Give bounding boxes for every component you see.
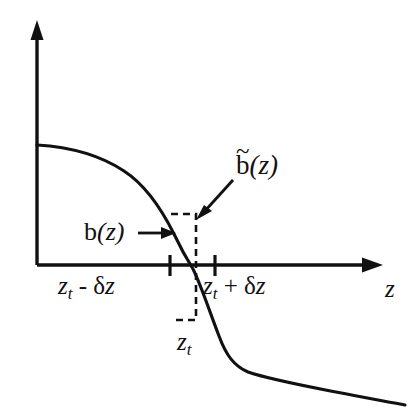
b-base: b [84, 217, 97, 246]
label-x-axis-z: z [385, 276, 395, 301]
b-argument: (z) [97, 217, 124, 246]
delta-glyph: δ [244, 272, 256, 299]
label-zt-plus-deltaz: zt + δz [203, 273, 266, 302]
zt-plus-op: + [217, 272, 244, 299]
b-tilde-annotation-arrow [196, 180, 233, 220]
label-b-of-z: b(z) [84, 219, 124, 245]
zt-minus-op: - [72, 272, 93, 299]
b-tilde-argument: (z) [250, 150, 279, 180]
zt-sub: t [187, 340, 192, 359]
label-zt-minus-deltaz: zt - δz [58, 273, 115, 302]
zt-minus-var2: z [105, 272, 115, 299]
x-axis-arrowhead [362, 258, 383, 273]
zt-plus-var: z [203, 272, 213, 299]
label-b-tilde-of-z: b ~ (z) [236, 152, 278, 179]
y-axis-arrowhead [31, 20, 44, 40]
tilde-accent-icon: ~ [236, 139, 249, 164]
zt-var: z [177, 328, 187, 355]
figure-canvas: b ~ (z) b(z) zt - δz zt + δz zt z [0, 0, 414, 420]
x-axis [37, 258, 383, 273]
diagram-svg [0, 0, 414, 420]
zt-minus-var: z [58, 272, 68, 299]
b-arrow-head [161, 227, 176, 239]
y-axis [31, 20, 44, 265]
delta-glyph: δ [93, 272, 105, 299]
zt-plus-var2: z [256, 272, 266, 299]
b-tilde-arrow-shaft [204, 180, 233, 212]
label-zt: zt [177, 329, 191, 358]
b-tilde-glyph: b ~ [236, 152, 250, 179]
